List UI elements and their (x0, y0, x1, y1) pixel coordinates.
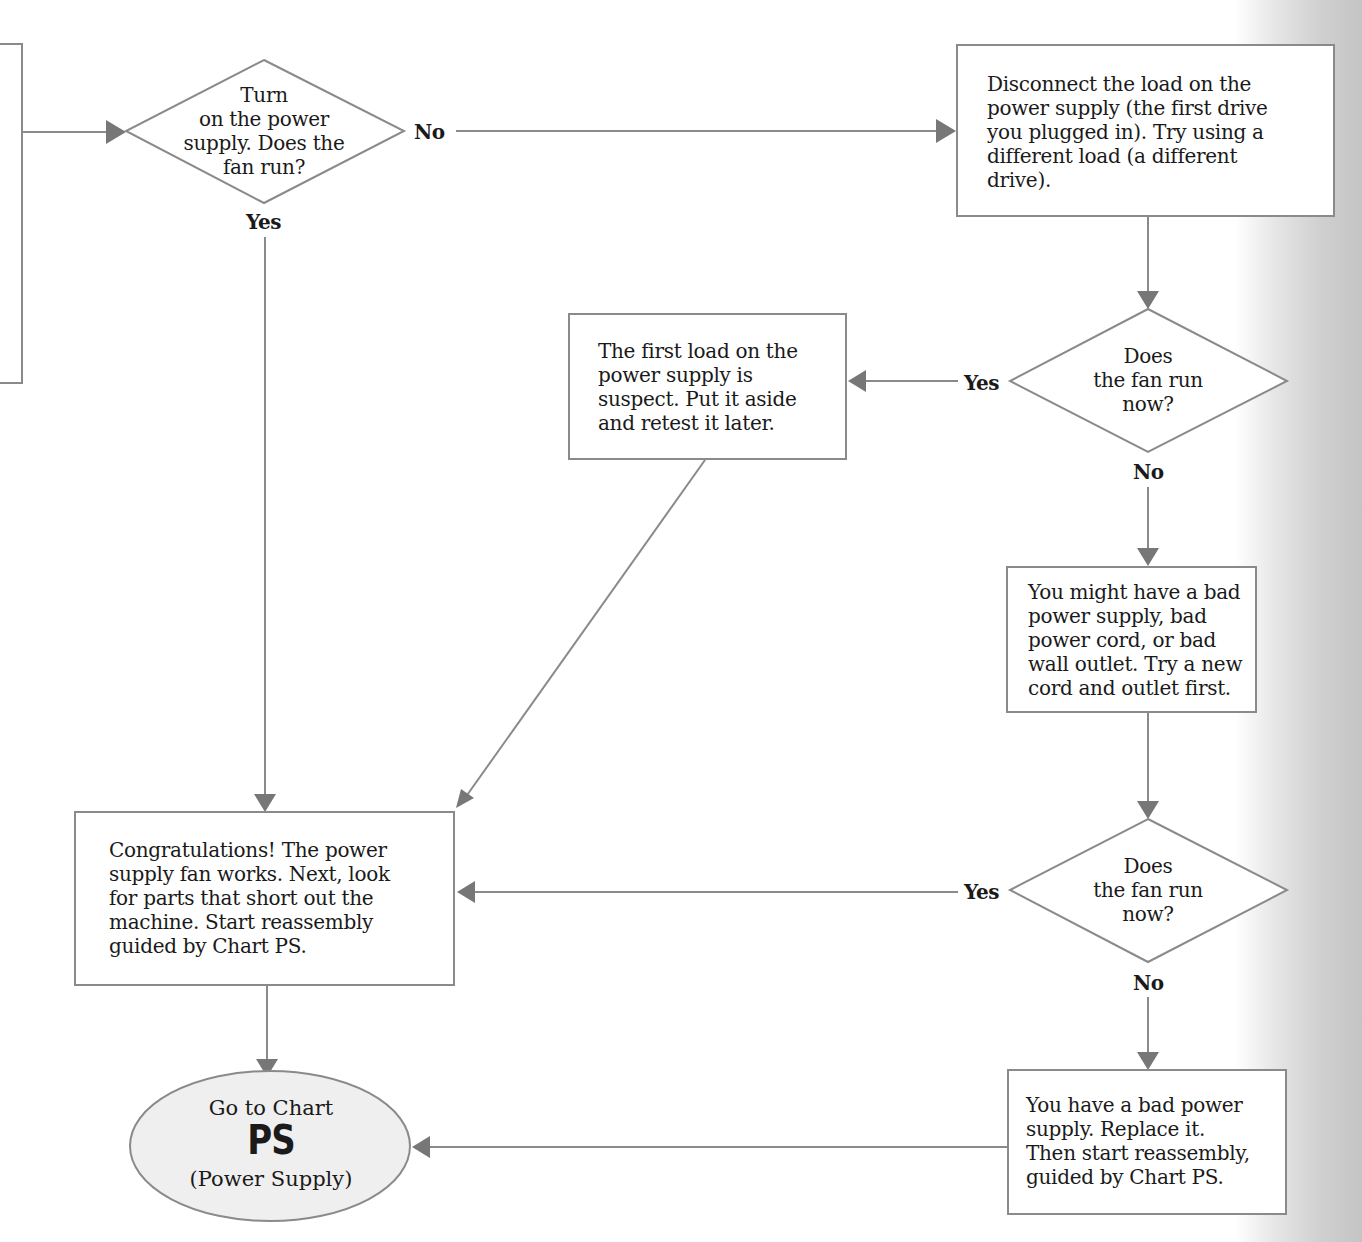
box-congratulations-text: Congratulations! The power supply fan wo… (109, 838, 390, 958)
decision-start-text: Turn on the power supply. Does the fan r… (164, 83, 364, 179)
decision-2-no-label: No (1133, 460, 1164, 484)
box-congratulations: Congratulations! The power supply fan wo… (74, 811, 455, 986)
arrowhead (848, 370, 866, 392)
arrowhead (457, 881, 475, 903)
decision-3-yes-label: Yes (964, 880, 999, 904)
box-bad-supply: You have a bad power supply. Replace it.… (1007, 1069, 1287, 1215)
box-possible-bad-supply-text: You might have a bad power supply, bad p… (1028, 580, 1242, 700)
box-disconnect-load-text: Disconnect the load on the power supply … (987, 72, 1268, 192)
decision-2-text: Does the fan run now? (1048, 344, 1248, 416)
arrowhead (456, 789, 474, 808)
offscreen-box-edge (0, 44, 22, 383)
box-disconnect-load: Disconnect the load on the power supply … (956, 44, 1335, 217)
arrowhead (412, 1136, 430, 1158)
box-first-load-suspect: The first load on the power supply is su… (568, 313, 847, 460)
box-bad-supply-text: You have a bad power supply. Replace it.… (1026, 1093, 1250, 1189)
box-possible-bad-supply: You might have a bad power supply, bad p… (1006, 566, 1257, 713)
arrowhead (1137, 548, 1159, 566)
decision-start-no-label: No (414, 120, 445, 144)
terminal-chart-code: PS (152, 1118, 390, 1162)
decision-2-yes-label: Yes (964, 371, 999, 395)
arrowhead (1137, 1052, 1159, 1070)
arrowhead (936, 119, 956, 143)
decision-3-no-label: No (1133, 971, 1164, 995)
decision-start-yes-label: Yes (246, 210, 281, 234)
arrowhead (1137, 291, 1159, 309)
arrowhead (1137, 801, 1159, 819)
decision-3-text: Does the fan run now? (1048, 854, 1248, 926)
terminal-chart-name: (Power Supply) (131, 1167, 411, 1191)
arrowhead (254, 794, 276, 812)
arrowhead (106, 120, 126, 144)
box-first-load-suspect-text: The first load on the power supply is su… (598, 339, 798, 435)
